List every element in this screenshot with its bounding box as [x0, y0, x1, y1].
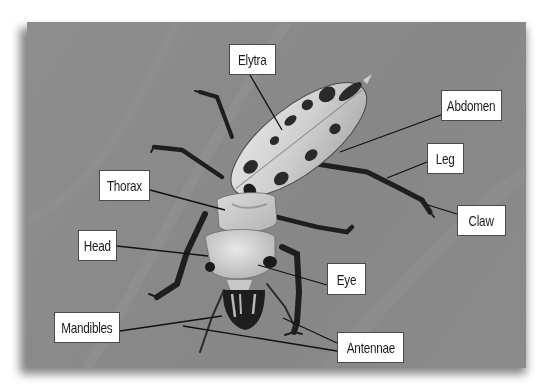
label-claw: Claw: [457, 205, 506, 236]
label-abdomen: Abdomen: [441, 90, 502, 121]
label-head-text: Head: [84, 237, 111, 254]
label-elytra: Elytra: [229, 44, 276, 75]
label-leg: Leg: [427, 143, 464, 174]
label-head: Head: [78, 230, 117, 261]
label-antennae-text: Antennae: [346, 339, 394, 356]
elytra-body: [214, 62, 385, 216]
label-antennae: Antennae: [337, 332, 404, 363]
thorax-body: [217, 193, 277, 233]
label-thorax: Thorax: [99, 170, 150, 201]
label-claw-text: Claw: [469, 212, 494, 229]
mandibles-body: [223, 290, 265, 330]
label-elytra-text: Elytra: [238, 51, 267, 68]
label-mandibles: Mandibles: [54, 312, 120, 343]
diagram-frame: Elytra Abdomen Leg Claw Thorax Head Eye …: [0, 0, 545, 390]
label-eye-text: Eye: [337, 271, 356, 288]
label-thorax-text: Thorax: [107, 177, 142, 194]
label-mandibles-text: Mandibles: [61, 319, 112, 336]
label-abdomen-text: Abdomen: [447, 97, 495, 114]
label-eye: Eye: [327, 263, 366, 295]
label-leg-text: Leg: [436, 150, 455, 167]
